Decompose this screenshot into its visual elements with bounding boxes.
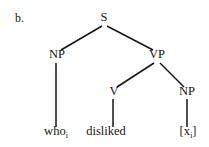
tree-node-np2: NP	[179, 85, 195, 98]
syntax-tree-figure: b. SNPVPVNP whoidisliked[xi]	[0, 0, 209, 147]
tree-terminal-t3: [xi]	[180, 125, 197, 138]
terminal-index-subscript: i	[66, 131, 68, 140]
tree-edge-s-np1	[61, 26, 102, 50]
tree-node-v: V	[109, 85, 118, 98]
tree-node-vp: VP	[149, 48, 165, 61]
terminal-word: [x	[180, 124, 190, 138]
tree-node-np1: NP	[49, 48, 65, 61]
tree-node-s: S	[101, 11, 108, 24]
terminal-word: disliked	[86, 124, 126, 138]
tree-terminal-t1: whoi	[44, 125, 68, 138]
figure-enumeration-label: b.	[15, 12, 24, 24]
tree-edge-s-vp	[107, 26, 153, 50]
terminal-word: who	[44, 124, 66, 138]
tree-edge-vp-v	[117, 63, 154, 87]
tree-terminal-t2: disliked	[86, 125, 126, 138]
terminal-index-subscript: i	[190, 131, 192, 140]
terminal-suffix: ]	[192, 124, 196, 138]
